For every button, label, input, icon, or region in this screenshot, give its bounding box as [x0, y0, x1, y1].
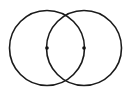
right-center-point — [82, 46, 86, 50]
vesica-piscis-diagram — [0, 0, 129, 88]
left-center-point — [45, 46, 49, 50]
